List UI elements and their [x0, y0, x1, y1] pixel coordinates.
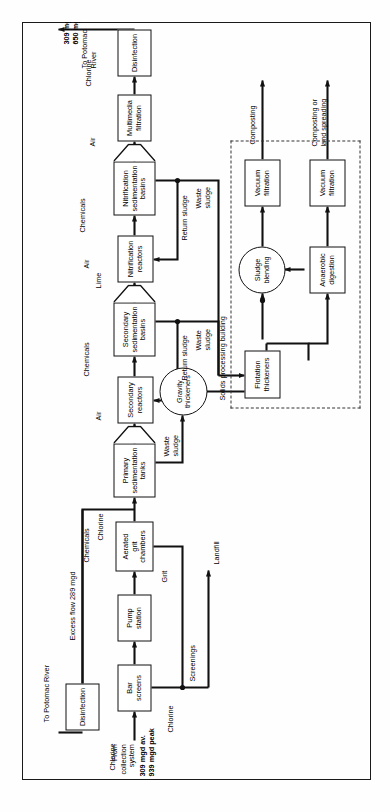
box-nitrification-sedimentation-basins[interactable]: Nitrification sedimentation basins [113, 161, 155, 215]
label-chemicals-secondary: Chemicals [82, 342, 91, 376]
label-chlorine-excess: Chlorine [108, 743, 117, 770]
label-return-sludge-nitrification: Return sludge [180, 195, 189, 240]
box-aerated-grit-chambers[interactable]: Aerated grit chambers [115, 521, 153, 571]
label-air-nitrification: Air [82, 259, 91, 268]
label-waste-sludge-primary: Waste sludge [162, 434, 179, 456]
box-pump-station[interactable]: Pump station [117, 594, 151, 641]
label-landfill: Landfill [212, 541, 221, 564]
box-secondary-reactors[interactable]: Secondary reactors [117, 376, 153, 423]
hopper-nitrification [113, 143, 155, 161]
hopper-secondary [113, 284, 155, 302]
box-disinfection-excess[interactable]: Disinfection [65, 683, 99, 730]
box-label: Nitrification sedimentation basins [121, 165, 147, 211]
solids-processing-building-boundary [230, 140, 360, 408]
label-chemicals-nitrification: Chemicals [78, 198, 87, 232]
label-waste-sludge-secondary: Waste sludge [194, 328, 211, 350]
box-label: Aerated grit chambers [121, 530, 147, 562]
box-label: Primary sedimentation tanks [121, 447, 147, 493]
box-label: Disinfection [78, 687, 87, 725]
label-air-secondary: Air [94, 411, 103, 420]
box-label: Secondary reactors [126, 382, 143, 417]
box-label: Pump station [125, 607, 142, 629]
label-composting-or-land-spreading: Composting or land spreading [310, 98, 327, 146]
label-solids-processing-building: Solids processing building [218, 316, 227, 400]
box-nitrification-reactors[interactable]: Nitrification reactors [117, 235, 153, 282]
box-multimedia-filtration[interactable]: Multimedia filtration [117, 94, 151, 141]
label-grit: Grit [160, 570, 169, 582]
label-to-potomac-main: To Potomac River [80, 29, 97, 68]
label-influent-flow: 309 mgd av. 939 mgd peak [138, 728, 155, 776]
label-return-sludge-secondary: Return sludge [180, 335, 189, 380]
diagram-page: Bar screens Pump station Aerated grit ch… [0, 0, 390, 812]
diagram-canvas-wrapper: Bar screens Pump station Aerated grit ch… [22, 22, 371, 780]
box-label: Disinfection [130, 33, 139, 71]
box-label: Multimedia filtration [125, 100, 142, 136]
box-disinfection-main[interactable]: Disinfection [117, 29, 151, 76]
label-to-potomac-excess: To Potomac River [42, 664, 51, 722]
box-label: Secondary sedimentation basins [121, 306, 147, 352]
label-waste-sludge-nitrification: Waste sludge [194, 186, 211, 208]
label-chlorine-grit: Chlorine [96, 513, 105, 540]
label-lime-nitrification: Lime [94, 272, 103, 288]
box-bar-screens[interactable]: Bar screens [117, 664, 151, 711]
label-chlorine-inlet: Chlorine [166, 705, 175, 732]
diagram-canvas: Bar screens Pump station Aerated grit ch… [22, 22, 371, 780]
box-secondary-sedimentation-basins[interactable]: Secondary sedimentation basins [113, 302, 155, 356]
label-excess-flow: Excess flow 289 mgd [68, 571, 77, 640]
box-label: Nitrification reactors [126, 240, 143, 277]
label-screenings: Screenings [188, 644, 197, 681]
label-composting: Composting [248, 105, 257, 144]
label-air-filtration: Air [88, 137, 97, 146]
label-chemicals-grit: Chemicals [82, 528, 91, 562]
box-primary-sedimentation-tanks[interactable]: Primary sedimentation tanks [113, 443, 155, 497]
box-label: Bar screens [125, 675, 142, 701]
hopper-primary [113, 425, 155, 443]
label-main-effluent-flow: 309 mgd av. 650 mgd peak [62, 22, 79, 44]
